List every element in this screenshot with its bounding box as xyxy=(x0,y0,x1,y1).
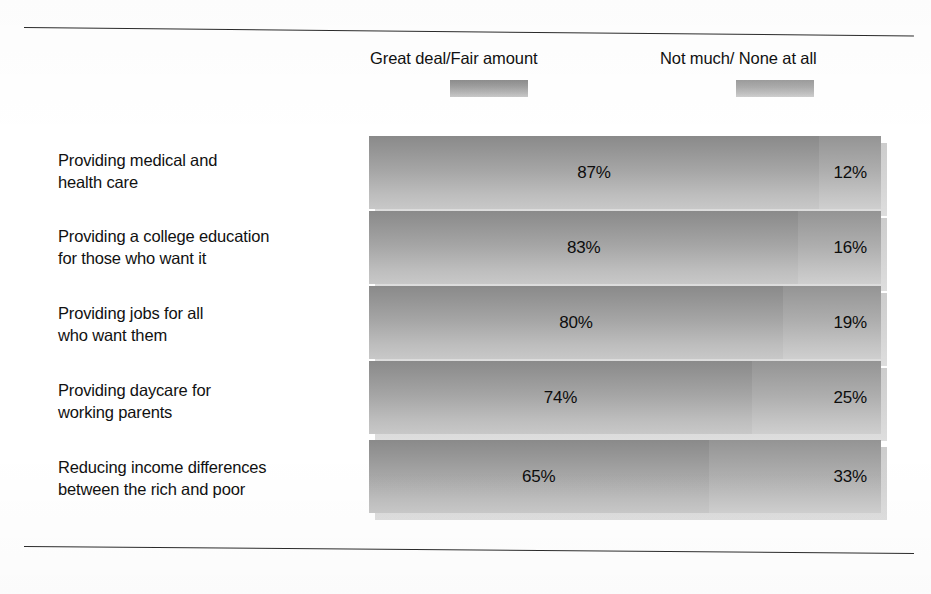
bar-value-great-deal: 87% xyxy=(577,163,610,183)
bar-group-3: 80%19% xyxy=(369,286,881,359)
bar-value-great-deal: 80% xyxy=(559,313,592,333)
bar-value-not-much: 25% xyxy=(834,388,867,408)
row-label-line: between the rich and poor xyxy=(58,479,358,501)
stacked-bar: 65%33% xyxy=(369,440,881,513)
bar-segment-great-deal: 83% xyxy=(369,211,798,284)
bar-segment-not-much: 25% xyxy=(752,361,881,434)
row-label-2: Providing a college educationfor those w… xyxy=(58,226,358,269)
bar-value-great-deal: 65% xyxy=(522,467,555,487)
stacked-bar: 74%25% xyxy=(369,361,881,434)
row-label-line: Providing daycare for xyxy=(58,380,358,402)
bar-segment-not-much: 16% xyxy=(798,211,881,284)
bar-segment-not-much: 33% xyxy=(709,440,881,513)
bar-value-not-much: 33% xyxy=(834,467,867,487)
bar-value-great-deal: 74% xyxy=(544,388,577,408)
row-label-line: who want them xyxy=(58,325,358,347)
stacked-bar: 83%16% xyxy=(369,211,881,284)
bar-group-4: 74%25% xyxy=(369,361,881,434)
row-label-line: for those who want it xyxy=(58,248,358,270)
row-label-line: Providing a college education xyxy=(58,226,358,248)
row-label-line: Reducing income differences xyxy=(58,457,358,479)
bar-segment-not-much: 12% xyxy=(819,136,881,209)
stacked-bar: 87%12% xyxy=(369,136,881,209)
bar-segment-great-deal: 80% xyxy=(369,286,783,359)
stacked-bar: 80%19% xyxy=(369,286,881,359)
bar-value-great-deal: 83% xyxy=(567,238,600,258)
row-label-3: Providing jobs for allwho want them xyxy=(58,303,358,346)
bar-value-not-much: 19% xyxy=(834,313,867,333)
chart-plot-area: Providing medical andhealth care87%12%Pr… xyxy=(0,0,931,594)
bar-group-1: 87%12% xyxy=(369,136,881,209)
bar-segment-great-deal: 87% xyxy=(369,136,819,209)
bar-segment-great-deal: 65% xyxy=(369,440,709,513)
bar-value-not-much: 12% xyxy=(834,163,867,183)
chart-page: Great deal/Fair amount Not much/ None at… xyxy=(0,0,931,594)
row-label-5: Reducing income differencesbetween the r… xyxy=(58,457,358,500)
bar-group-2: 83%16% xyxy=(369,211,881,284)
bar-segment-not-much: 19% xyxy=(783,286,881,359)
row-label-line: health care xyxy=(58,172,358,194)
row-label-line: Providing jobs for all xyxy=(58,303,358,325)
bar-group-5: 65%33% xyxy=(369,440,881,513)
row-label-1: Providing medical andhealth care xyxy=(58,150,358,193)
row-label-line: working parents xyxy=(58,402,358,424)
bar-value-not-much: 16% xyxy=(834,238,867,258)
row-label-line: Providing medical and xyxy=(58,150,358,172)
row-label-4: Providing daycare forworking parents xyxy=(58,380,358,423)
bar-segment-great-deal: 74% xyxy=(369,361,752,434)
